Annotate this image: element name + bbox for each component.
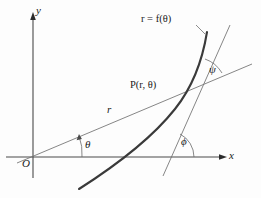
angle-theta-label: θ [85, 139, 90, 150]
x-axis-label: x [229, 150, 234, 161]
polar-curve-path [79, 32, 207, 189]
y-axis-label: y [36, 5, 41, 16]
curve-label-leader [196, 25, 205, 34]
y-axis-arrowhead [30, 12, 36, 20]
point-p-label: P(r, θ) [130, 80, 156, 91]
angle-psi-label: ψ [209, 64, 216, 75]
radius-label: r [107, 104, 111, 115]
diagram-canvas [0, 0, 261, 198]
origin-label: O [22, 158, 30, 169]
curve-equation-label: r = f(θ) [141, 14, 171, 25]
tangent-line [163, 25, 230, 176]
angle-phi-label: ϕ [181, 136, 187, 147]
polar-diagram-figure: y x O r = f(θ) P(r, θ) r θ ϕ ψ [0, 0, 261, 198]
x-axis-arrowhead [219, 154, 227, 160]
